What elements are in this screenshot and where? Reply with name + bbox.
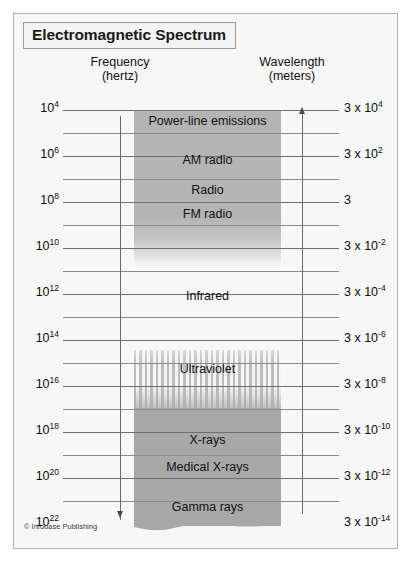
frequency-tick-label: 104 [40, 102, 59, 114]
wavelength-tick-label: 3 x 10-14 [344, 516, 390, 528]
gridline-major [63, 386, 339, 387]
gridline-minor [63, 133, 339, 134]
frequency-direction-axis [120, 116, 121, 520]
wavelength-direction-axis [302, 110, 303, 514]
frequency-tick-label: 1018 [36, 424, 59, 436]
wavelength-tick-label: 3 x 10-2 [344, 240, 386, 252]
frequency-axis-heading: Frequency (hertz) [60, 56, 180, 83]
wavelength-tick-label: 3 x 10-6 [344, 332, 386, 344]
frequency-tick-label: 1014 [36, 332, 59, 344]
gridline-minor [63, 271, 339, 272]
gridline-major [63, 248, 339, 249]
band-bottom-wave-edge [134, 514, 281, 536]
gridline-minor [63, 409, 339, 410]
gridline-minor [63, 317, 339, 318]
wavelength-tick-label: 3 [344, 194, 351, 206]
wavelength-tick-label: 3 x 102 [344, 148, 383, 160]
frequency-tick-label: 1016 [36, 378, 59, 390]
frequency-tick-label: 1020 [36, 470, 59, 482]
frequency-axis-unit: (hertz) [60, 70, 180, 84]
band-label-xrays: X-rays [134, 434, 281, 447]
frequency-tick-label: 1010 [36, 240, 59, 252]
wavelength-tick-label: 3 x 10-4 [344, 286, 386, 298]
gridline-minor [63, 179, 339, 180]
band-label-fm-radio: FM radio [134, 208, 281, 221]
gridline-major [63, 340, 339, 341]
band-label-radio: Radio [134, 184, 281, 197]
frequency-tick-label: 1012 [36, 286, 59, 298]
wavelength-tick-label: 3 x 104 [344, 102, 383, 114]
arrow-down-icon [117, 511, 123, 518]
frequency-axis-title: Frequency [60, 56, 180, 70]
ultraviolet-band-shading [134, 350, 281, 408]
arrow-up-icon [299, 107, 305, 114]
electromagnetic-spectrum-figure: Electromagnetic Spectrum Frequency (hert… [13, 13, 398, 549]
wavelength-tick-label: 3 x 10-12 [344, 470, 390, 482]
spectrum-band-column [134, 110, 281, 520]
wavelength-axis-unit: (meters) [232, 70, 352, 84]
band-label-power-line: Power-line emissions [134, 115, 281, 128]
wavelength-tick-label: 3 x 10-8 [344, 378, 386, 390]
frequency-tick-label: 108 [40, 194, 59, 206]
band-label-gamma-rays: Gamma rays [134, 501, 281, 514]
gridline-minor [63, 455, 339, 456]
gridline-major [63, 110, 339, 111]
wavelength-tick-label: 3 x 10-10 [344, 424, 390, 436]
spectrum-plot-area: Frequency (hertz) Wavelength (meters) [14, 14, 399, 550]
gridline-major [63, 202, 339, 203]
gridline-minor [63, 225, 339, 226]
band-label-ultraviolet: Ultraviolet [134, 363, 281, 376]
band-label-infrared: Infrared [134, 290, 281, 303]
wavelength-axis-heading: Wavelength (meters) [232, 56, 352, 83]
gridline-major [63, 478, 339, 479]
copyright-credit: © Infobase Publishing [24, 522, 97, 531]
wavelength-axis-title: Wavelength [232, 56, 352, 70]
band-label-medical-xrays: Medical X-rays [134, 461, 281, 474]
band-label-am-radio: AM radio [134, 154, 281, 167]
frequency-tick-label: 106 [40, 148, 59, 160]
